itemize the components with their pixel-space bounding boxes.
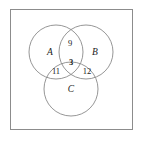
region-count-ab: 9 [68,38,72,48]
venn-diagram-figure: A B C 9 3 11 12 [0,0,142,141]
region-count-ac: 11 [52,66,60,76]
region-count-abc: 3 [69,57,73,67]
region-count-bc: 12 [83,66,92,76]
set-label-b: B [92,47,98,57]
set-label-a: A [46,47,53,57]
venn-diagram-canvas: A B C 9 3 11 12 [0,0,142,141]
set-label-c: C [68,84,75,94]
outer-border-rect [11,10,133,130]
